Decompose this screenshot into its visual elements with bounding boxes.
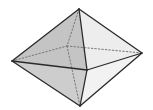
octahedron-diagram	[0, 0, 153, 110]
face-upper-left-front	[12, 9, 87, 70]
